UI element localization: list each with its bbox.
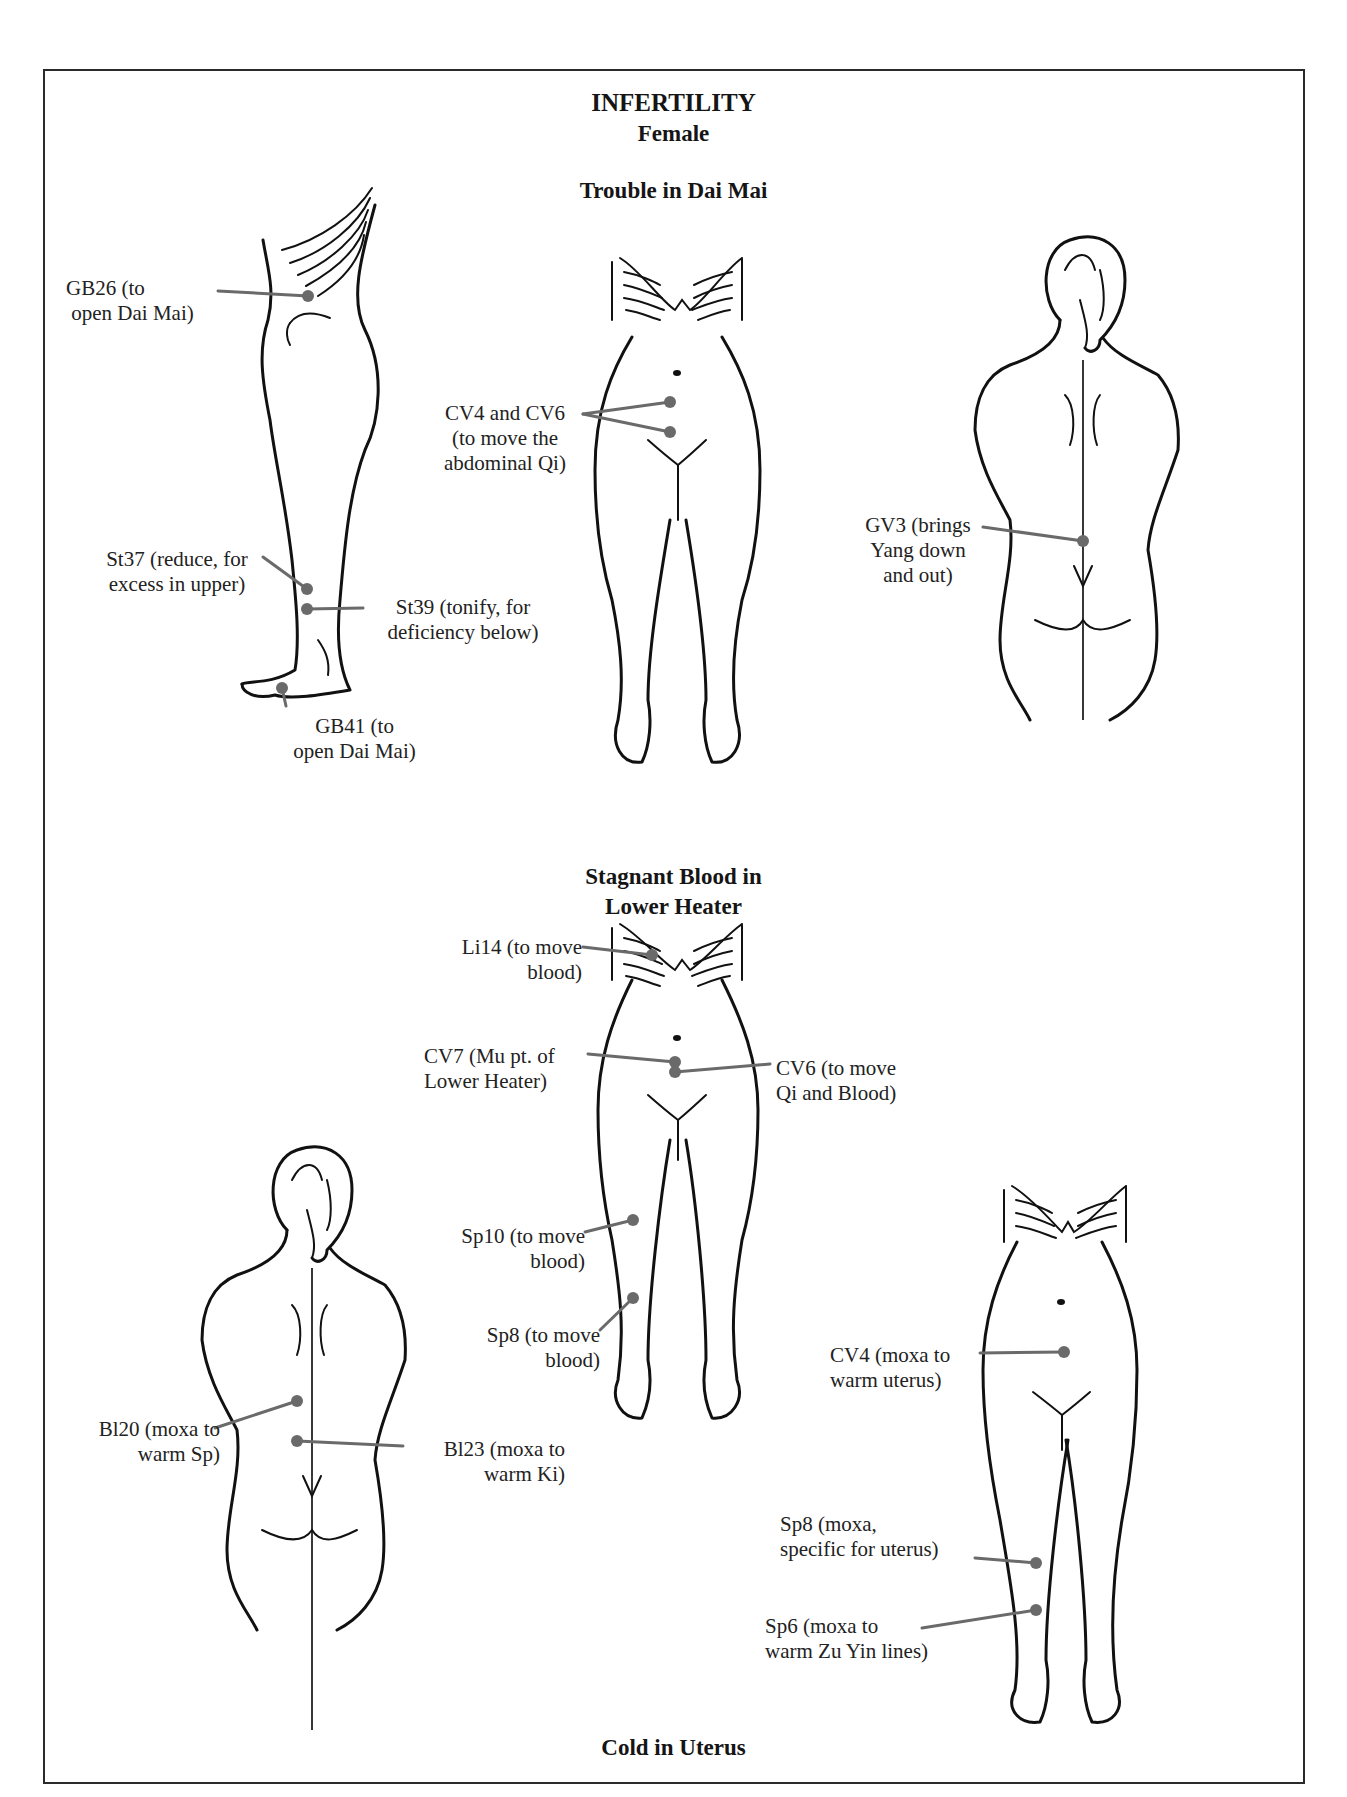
back-figure-cold-uterus xyxy=(202,1147,405,1730)
label-sp8-blood: Sp8 (to move blood) xyxy=(430,1323,600,1373)
label-cv7: CV7 (Mu pt. of Lower Heater) xyxy=(424,1044,555,1094)
side-leg-figure xyxy=(218,188,378,706)
label-bl20: Bl20 (moxa to warm Sp) xyxy=(60,1417,220,1467)
label-bl23: Bl23 (moxa to warm Ki) xyxy=(405,1437,565,1487)
cv4-point xyxy=(664,396,676,408)
gb26-point xyxy=(302,290,314,302)
front-figure-dai-mai xyxy=(583,258,760,762)
figures-canvas xyxy=(0,0,1347,1797)
gb41-point xyxy=(276,682,288,694)
label-sp6-moxa: Sp6 (moxa to warm Zu Yin lines) xyxy=(765,1614,928,1664)
front-figure-cold-uterus xyxy=(922,1186,1137,1722)
label-st37: St37 (reduce, for excess in upper) xyxy=(82,547,272,597)
cv6-point xyxy=(664,426,676,438)
st37-point xyxy=(301,583,313,595)
label-li14: Li14 (to move blood) xyxy=(410,935,582,985)
back-figure-dai-mai xyxy=(975,237,1178,720)
label-cv4-moxa: CV4 (moxa to warm uterus) xyxy=(830,1343,950,1393)
front-figure-stagnant-blood xyxy=(583,924,770,1418)
label-sp10: Sp10 (to move blood) xyxy=(420,1224,585,1274)
label-cv4-cv6: CV4 and CV6 (to move the abdominal Qi) xyxy=(425,401,585,476)
li14-point xyxy=(646,949,658,961)
cv4-moxa-point xyxy=(1058,1346,1070,1358)
label-sp8-moxa: Sp8 (moxa, specific for uterus) xyxy=(780,1512,939,1562)
st39-point xyxy=(301,603,313,615)
bl20-point xyxy=(291,1395,303,1407)
label-cv6-blood: CV6 (to move Qi and Blood) xyxy=(776,1056,896,1106)
label-gv3: GV3 (brings Yang down and out) xyxy=(838,513,998,588)
label-st39: St39 (tonify, for deficiency below) xyxy=(368,595,558,645)
cv6-blood-point xyxy=(669,1066,681,1078)
label-gb26: GB26 (to open Dai Mai) xyxy=(66,276,194,326)
label-gb41: GB41 (to open Dai Mai) xyxy=(272,714,437,764)
sp8-blood-point xyxy=(627,1292,639,1304)
sp6-moxa-point xyxy=(1030,1604,1042,1616)
bl23-point xyxy=(291,1435,303,1447)
sp10-point xyxy=(627,1214,639,1226)
sp8-moxa-point xyxy=(1030,1557,1042,1569)
gv3-point xyxy=(1077,535,1089,547)
